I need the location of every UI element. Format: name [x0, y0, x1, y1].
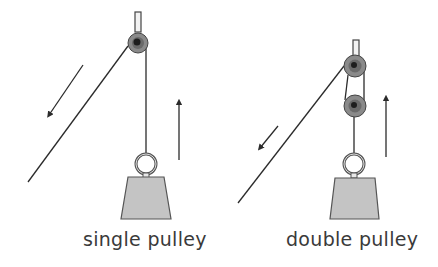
double-pulley-system — [238, 40, 386, 219]
double-pulley-top-wheel — [344, 55, 366, 77]
single-pulley-pull-rope — [28, 46, 128, 182]
double-pulley-weight — [330, 178, 379, 219]
pulley-diagram — [0, 0, 438, 267]
double-pulley-bottom-wheel — [344, 95, 366, 117]
single-pulley-wheel — [128, 33, 148, 53]
single-pulley-weight — [121, 177, 171, 219]
double-pulley-pull-rope — [238, 66, 344, 203]
single-pulley-system — [28, 12, 179, 219]
double-pulley-link-rope-left — [345, 75, 348, 100]
single-pull-arrow — [49, 65, 83, 115]
single-pulley-bracket — [135, 12, 141, 32]
double-pulley-label: double pulley — [286, 228, 418, 250]
double-pull-arrow — [260, 126, 278, 148]
single-pulley-label: single pulley — [83, 228, 207, 250]
